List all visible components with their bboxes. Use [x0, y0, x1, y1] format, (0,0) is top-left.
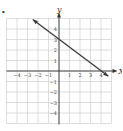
data-line — [33, 20, 109, 77]
svg-text:−1: −1 — [50, 79, 57, 85]
svg-text:−4: −4 — [13, 72, 20, 78]
svg-text:−3: −3 — [50, 100, 57, 106]
svg-text:4: 4 — [99, 72, 102, 78]
bullet-marker: • — [1, 8, 6, 17]
svg-text:1: 1 — [68, 72, 71, 78]
svg-text:−2: −2 — [34, 72, 41, 78]
svg-text:1: 1 — [54, 58, 57, 64]
y-axis-label: y — [56, 5, 62, 14]
svg-text:2: 2 — [54, 47, 57, 53]
svg-text:3: 3 — [89, 72, 92, 78]
svg-text:−1: −1 — [45, 72, 52, 78]
svg-text:−4: −4 — [50, 110, 57, 116]
coordinate-plane: • −4−3−2−112344321−1−2−3−4 X y — [0, 0, 122, 131]
svg-text:−2: −2 — [50, 89, 57, 95]
svg-text:4: 4 — [54, 26, 57, 32]
x-axis-label: X — [118, 67, 123, 76]
svg-text:2: 2 — [78, 72, 81, 78]
svg-text:−3: −3 — [24, 72, 31, 78]
